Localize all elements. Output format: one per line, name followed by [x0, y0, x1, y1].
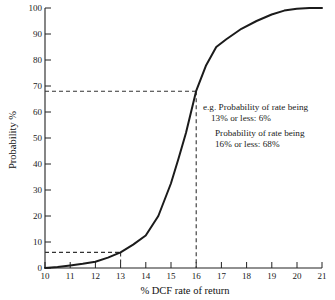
cumulative-probability-chart: 100 90 80 70 60 50 40 30 20 10 0 [0, 0, 335, 300]
y-tick-label: 50 [33, 133, 43, 143]
x-tick-label: 10 [41, 271, 51, 281]
annotation-block-1: e.g. Probability of rate being 13% or le… [203, 102, 309, 123]
annotation-line: 16% or less: 68% [215, 139, 280, 149]
x-tick-label: 11 [66, 271, 75, 281]
x-tick-label: 13 [116, 271, 126, 281]
x-tick-label: 16 [192, 271, 202, 281]
y-axis-ticks [45, 8, 51, 268]
x-tick-label: 18 [242, 271, 252, 281]
y-tick-label: 10 [33, 237, 43, 247]
x-tick-label: 14 [141, 271, 151, 281]
cumulative-probability-curve [45, 8, 322, 268]
y-axis-title: Probability % [7, 111, 18, 169]
y-tick-label: 90 [33, 29, 43, 39]
x-axis-title: % DCF rate of return [140, 285, 230, 296]
annotation-line: e.g. Probability of rate being [203, 102, 309, 112]
y-axis-tick-labels: 100 90 80 70 60 50 40 30 20 10 0 [29, 3, 43, 273]
annotation-line: 13% or less: 6% [211, 113, 271, 123]
x-tick-label: 20 [293, 271, 303, 281]
x-tick-label: 12 [91, 271, 100, 281]
x-tick-label: 17 [217, 271, 227, 281]
x-tick-label: 21 [318, 271, 327, 281]
x-axis-tick-labels: 10 11 12 13 14 15 16 17 18 19 20 21 [41, 271, 327, 281]
y-tick-label: 70 [33, 81, 43, 91]
annotation-block-2: Probability of rate being 16% or less: 6… [215, 128, 305, 149]
y-tick-label: 60 [33, 107, 43, 117]
y-tick-label: 80 [33, 55, 43, 65]
x-tick-label: 15 [167, 271, 177, 281]
reference-guides [45, 91, 196, 268]
annotation-line: Probability of rate being [215, 128, 305, 138]
y-tick-label: 100 [29, 3, 43, 13]
y-tick-label: 20 [33, 211, 43, 221]
y-tick-label: 40 [33, 159, 43, 169]
chart-container: 100 90 80 70 60 50 40 30 20 10 0 [0, 0, 335, 300]
y-tick-label: 30 [33, 185, 43, 195]
x-tick-label: 19 [267, 271, 277, 281]
